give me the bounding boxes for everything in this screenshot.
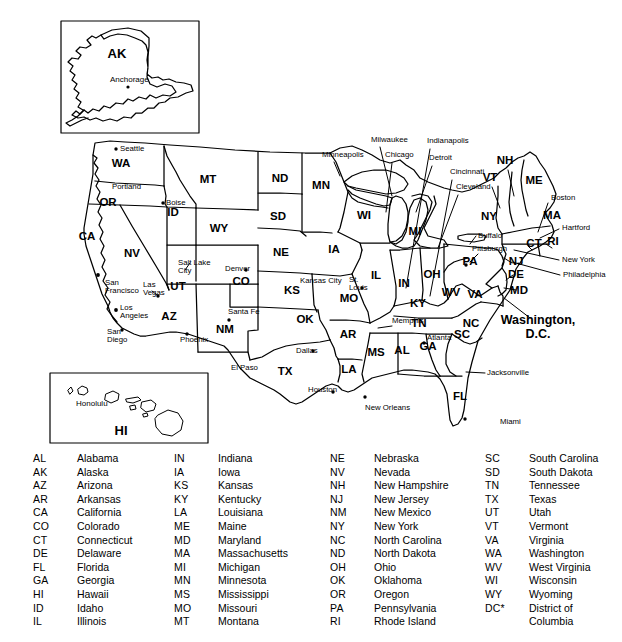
legend-state-name: Wyoming (529, 588, 573, 602)
legend-row: WIWisconsin (485, 574, 598, 588)
border-la-tx (330, 340, 338, 359)
legend-row: DC*District of (485, 602, 598, 616)
legend-abbr: HI (33, 588, 77, 602)
border-sd-ne (258, 228, 306, 236)
legend-row: NJNew Jersey (330, 493, 449, 507)
legend-abbr: OR (330, 588, 374, 602)
legend-abbr: MT (174, 615, 218, 629)
state-label-al: AL (394, 344, 409, 356)
hawaii-niihau (68, 387, 73, 394)
city-label-detroit: Detroit (429, 153, 453, 162)
legend-row: TXTexas (485, 493, 598, 507)
legend-row: MAMassachusetts (174, 547, 288, 561)
border-wi-ia-il (338, 232, 362, 250)
legend-state-name: West Virginia (529, 561, 590, 575)
us-map-svg: AK Anchorage Honolulu HI (0, 0, 622, 450)
legend-state-name: Florida (77, 561, 109, 575)
city-label-el-paso: El Paso (231, 363, 259, 372)
legend-abbr: ND (330, 547, 374, 561)
state-label-tx: TX (278, 365, 293, 377)
michigan-lower-peninsula (390, 198, 428, 248)
city-label-las-vegas: LasVegas (143, 280, 165, 297)
city-label-philadelphia: Philadelphia (563, 270, 606, 279)
legend-state-name: Vermont (529, 520, 568, 534)
legend-state-name: Louisiana (218, 506, 263, 520)
border-mi-in-oh (390, 248, 430, 250)
state-label-ca: CA (79, 230, 96, 242)
legend-row: MDMaryland (174, 534, 288, 548)
legend-row: OKOklahoma (330, 574, 449, 588)
border-mn-wi (330, 153, 348, 232)
legend-abbr: MO (174, 602, 218, 616)
legend-state-name: Georgia (77, 574, 114, 588)
hawaii-maui (141, 400, 156, 412)
legend-column-3: NENebraskaNVNevadaNHNew HampshireNJNew J… (330, 452, 449, 629)
state-label-ny: NY (481, 210, 497, 222)
city-label-pittsburgh: Pittsburgh (472, 244, 507, 253)
legend-state-name: New Mexico (374, 506, 431, 520)
legend-state-name: Minnesota (218, 574, 266, 588)
legend-abbr: MS (174, 588, 218, 602)
state-label-mi: MI (409, 225, 422, 237)
city-label-kansas-city: Kansas City (300, 276, 342, 285)
legend-abbr: PA (330, 602, 374, 616)
hawaii-kauai (78, 386, 88, 395)
alaska-label: AK (108, 46, 127, 61)
legend-row: MSMississippi (174, 588, 288, 602)
legend-abbr: LA (174, 506, 218, 520)
legend-abbr: SD (485, 466, 529, 480)
legend-row: Columbia (485, 615, 598, 629)
state-label-ri: RI (547, 235, 559, 247)
legend-state-name: Arizona (77, 479, 113, 493)
legend-abbr: NJ (330, 493, 374, 507)
washington-dc-label: Washington,D.C. (501, 313, 576, 341)
state-label-ct: CT (526, 237, 541, 249)
legend-row: MNMinnesota (174, 574, 288, 588)
city-label-hartford: Hartford (562, 223, 590, 232)
state-label-or: OR (99, 196, 117, 208)
legend-state-name: Illinois (77, 615, 106, 629)
legend-abbr: SC (485, 452, 529, 466)
legend-abbr: NC (330, 534, 374, 548)
leader-memphis (378, 326, 392, 328)
legend-state-name: Rhode Island (374, 615, 436, 629)
state-label-mt: MT (200, 173, 217, 185)
border-ma-north (502, 226, 550, 234)
legend-abbr: MI (174, 561, 218, 575)
state-label-wi: WI (357, 209, 371, 221)
legend-state-name: Iowa (218, 466, 240, 480)
legend-row: OROregon (330, 588, 449, 602)
legend-state-name: Indiana (218, 452, 252, 466)
city-label-new-orleans: New Orleans (365, 403, 410, 412)
state-label-il: IL (371, 269, 381, 281)
legend-abbr: NE (330, 452, 374, 466)
legend-row: RIRhode Island (330, 615, 449, 629)
state-label-ky: KY (410, 297, 426, 309)
state-label-ks: KS (284, 284, 300, 296)
legend-abbr: DC* (485, 602, 529, 616)
legend-abbr: NY (330, 520, 374, 534)
border-mn-ia (302, 232, 332, 233)
city-dot-losangeles (114, 308, 118, 312)
legend-state-name: Montana (218, 615, 259, 629)
border-ne-ks (258, 271, 312, 274)
legend-state-name: Alaska (77, 466, 109, 480)
legend-state-name: South Carolina (529, 452, 598, 466)
border-al-fl (398, 374, 440, 376)
legend-row: NYNew York (330, 520, 449, 534)
state-label-nv: NV (124, 247, 140, 259)
legend-row: INIndiana (174, 452, 288, 466)
legend-state-name: Virginia (529, 534, 564, 548)
legend-state-name: Wisconsin (529, 574, 577, 588)
state-label-in: IN (398, 277, 410, 289)
us-map-figure: AK Anchorage Honolulu HI (0, 0, 622, 450)
legend-state-name: Delaware (77, 547, 121, 561)
border-nc-va (481, 302, 503, 306)
city-label-atlanta: Atlanta (427, 333, 452, 342)
border-nh-me (521, 160, 528, 216)
state-label-me: ME (525, 174, 543, 186)
city-label-cincinnati: Cincinnati (450, 167, 485, 176)
leader-nh (508, 170, 514, 196)
city-label-chicago: Chicago (385, 150, 414, 159)
city-dot-seattle (114, 147, 117, 150)
